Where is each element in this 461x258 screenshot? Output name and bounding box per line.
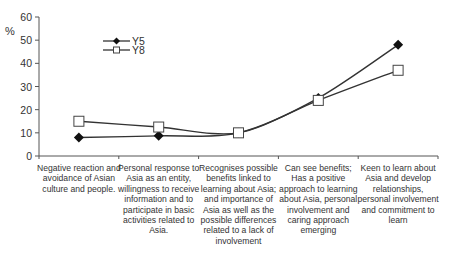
series-line (79, 45, 398, 138)
legend-square-icon (114, 47, 120, 53)
series-line (79, 70, 398, 134)
square-marker (393, 65, 403, 75)
series-group (74, 40, 403, 143)
y-tick-label: 40 (20, 57, 32, 69)
y-tick-label: 30 (20, 81, 32, 93)
x-label-0: Negative reaction and avoidance of Asian… (37, 163, 121, 194)
x-label-1: Personal response to Asia as an entity, … (117, 163, 201, 236)
legend-label: Y8 (132, 44, 145, 56)
square-marker (74, 116, 84, 126)
x-label-4: Keen to learn about Asia and develop rel… (356, 163, 440, 225)
series-y5 (74, 40, 403, 143)
y-tick-label: 60 (20, 11, 32, 23)
y-tick-label: 50 (20, 34, 32, 46)
legend: Y5Y8 (103, 35, 145, 56)
y-tick-label: 0 (26, 150, 32, 162)
x-label-3: Can see benefits; Has a positive approac… (276, 163, 360, 236)
legend-diamond-icon (113, 38, 120, 45)
y-tick-label: 20 (20, 104, 32, 116)
y-tick-label: 10 (20, 127, 32, 139)
x-axis (39, 156, 438, 159)
y-axis: 0102030405060 (20, 11, 39, 162)
square-marker (234, 128, 244, 138)
y-unit-label: % (5, 25, 15, 37)
diamond-marker (74, 132, 84, 142)
square-marker (154, 122, 164, 132)
square-marker (313, 95, 323, 105)
x-label-2: Recognises possible benefits linked to l… (197, 163, 281, 246)
diamond-marker (393, 40, 403, 50)
